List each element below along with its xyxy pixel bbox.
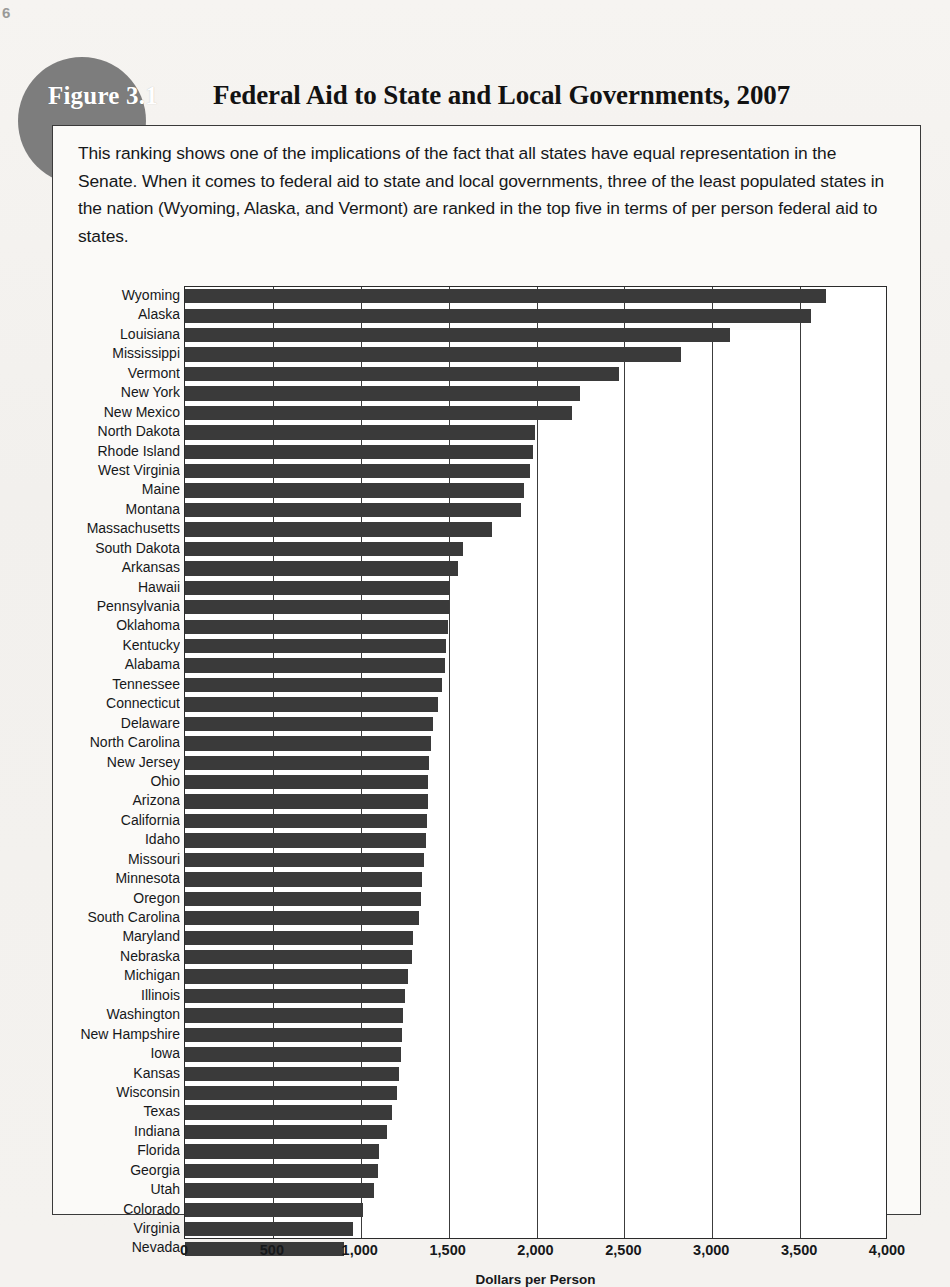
y-axis-label: Nevada [56, 1238, 180, 1257]
bar-row [185, 695, 886, 714]
bar [185, 853, 424, 867]
bar [185, 872, 422, 886]
bar-row [185, 443, 886, 462]
y-axis-label: Arkansas [56, 558, 180, 577]
bar [185, 522, 492, 536]
bar [185, 581, 450, 595]
bar [185, 697, 438, 711]
bar [185, 1203, 363, 1217]
bar-row [185, 851, 886, 870]
y-axis-label: Kansas [56, 1064, 180, 1083]
figure-box: This ranking shows one of the implicatio… [52, 125, 921, 1215]
bar [185, 1028, 402, 1042]
y-axis-label: Minnesota [56, 869, 180, 888]
x-tick-label: 4,000 [869, 1242, 905, 1258]
x-tick-label: 1,000 [342, 1242, 378, 1258]
bar [185, 1105, 392, 1119]
figure-tag-label: Figure 3.1 [48, 82, 158, 110]
y-axis-label: Illinois [56, 986, 180, 1005]
y-axis-category-labels: WyomingAlaskaLouisianaMississippiVermont… [56, 286, 180, 1258]
bar-row [185, 1162, 886, 1181]
bar [185, 1067, 399, 1081]
y-axis-label: Colorado [56, 1200, 180, 1219]
bar-row [185, 345, 886, 364]
bar [185, 1164, 378, 1178]
bar-row [185, 559, 886, 578]
bar-row [185, 812, 886, 831]
bar-row [185, 287, 886, 306]
y-axis-label: Delaware [56, 714, 180, 733]
bar [185, 969, 408, 983]
y-axis-label: Iowa [56, 1044, 180, 1063]
y-axis-label: Nebraska [56, 947, 180, 966]
y-axis-label: Virginia [56, 1219, 180, 1238]
y-axis-label: Indiana [56, 1122, 180, 1141]
bar [185, 1144, 379, 1158]
y-axis-label: Pennsylvania [56, 597, 180, 616]
bar-row [185, 520, 886, 539]
bar-row [185, 734, 886, 753]
y-axis-label: Alaska [56, 305, 180, 324]
y-axis-label: Michigan [56, 966, 180, 985]
y-axis-label: Vermont [56, 364, 180, 383]
bar [185, 464, 530, 478]
bar [185, 503, 521, 517]
bar-row [185, 617, 886, 636]
y-axis-label: Maine [56, 480, 180, 499]
y-axis-label: Tennessee [56, 675, 180, 694]
x-tick-label: 2,000 [517, 1242, 553, 1258]
bar [185, 542, 463, 556]
bar-row [185, 656, 886, 675]
y-axis-label: North Carolina [56, 733, 180, 752]
bar-row [185, 423, 886, 442]
bar-row [185, 637, 886, 656]
y-axis-label: Florida [56, 1141, 180, 1160]
bar-row [185, 365, 886, 384]
y-axis-label: New Mexico [56, 403, 180, 422]
bar [185, 833, 426, 847]
y-axis-label: New Jersey [56, 753, 180, 772]
y-axis-label: Maryland [56, 927, 180, 946]
bar [185, 911, 419, 925]
y-axis-label: Alabama [56, 655, 180, 674]
y-axis-label: New York [56, 383, 180, 402]
bar-row [185, 1201, 886, 1220]
bar [185, 425, 535, 439]
bar [185, 989, 405, 1003]
bar-row [185, 754, 886, 773]
y-axis-label: California [56, 811, 180, 830]
y-axis-label: West Virginia [56, 461, 180, 480]
bar-row [185, 579, 886, 598]
y-axis-label: South Carolina [56, 908, 180, 927]
bar-row [185, 540, 886, 559]
bar [185, 309, 811, 323]
x-tick-label: 3,500 [781, 1242, 817, 1258]
bar [185, 717, 433, 731]
bar [185, 328, 730, 342]
y-axis-label: Missouri [56, 850, 180, 869]
bar [185, 950, 412, 964]
bar [185, 1008, 403, 1022]
x-tick-label: 3,000 [693, 1242, 729, 1258]
bar-row [185, 1084, 886, 1103]
bar-row [185, 928, 886, 947]
bar [185, 658, 445, 672]
bar [185, 678, 442, 692]
y-axis-label: Utah [56, 1180, 180, 1199]
bar [185, 1183, 374, 1197]
bar-row [185, 326, 886, 345]
bar-row [185, 870, 886, 889]
bar [185, 1125, 387, 1139]
y-axis-label: Kentucky [56, 636, 180, 655]
bar-row [185, 1123, 886, 1142]
bar [185, 892, 421, 906]
bar-row [185, 909, 886, 928]
bar [185, 367, 619, 381]
bar [185, 931, 413, 945]
bar-row [185, 1026, 886, 1045]
bar-row [185, 404, 886, 423]
bar [185, 289, 826, 303]
bar-row [185, 1045, 886, 1064]
x-tick-label: 0 [180, 1242, 188, 1258]
bar-series [185, 287, 886, 1238]
